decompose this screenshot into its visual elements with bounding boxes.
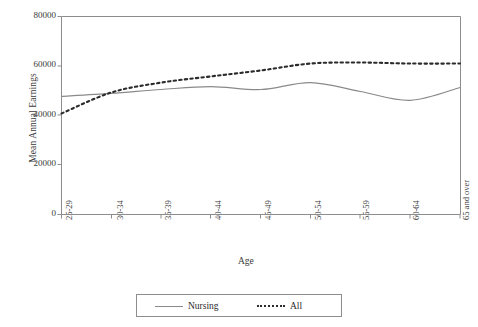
y-tick-marks	[58, 17, 62, 215]
plot-area	[0, 0, 478, 327]
series-line-all	[62, 62, 461, 113]
legend-swatch-solid-line-icon	[155, 306, 183, 307]
series-line-nursing	[62, 83, 461, 101]
chart-figure: Mean Annual Earnings 80000 60000 40000 2…	[0, 0, 478, 327]
legend-label: Nursing	[188, 301, 219, 311]
chart-legend: Nursing All	[136, 294, 342, 317]
legend-label: All	[290, 301, 302, 311]
x-tick-marks	[62, 215, 461, 219]
axis-frame	[62, 17, 461, 215]
legend-item-nursing: Nursing	[155, 299, 219, 313]
legend-swatch-dotted-line-icon	[257, 305, 285, 307]
legend-item-all: All	[257, 299, 302, 313]
